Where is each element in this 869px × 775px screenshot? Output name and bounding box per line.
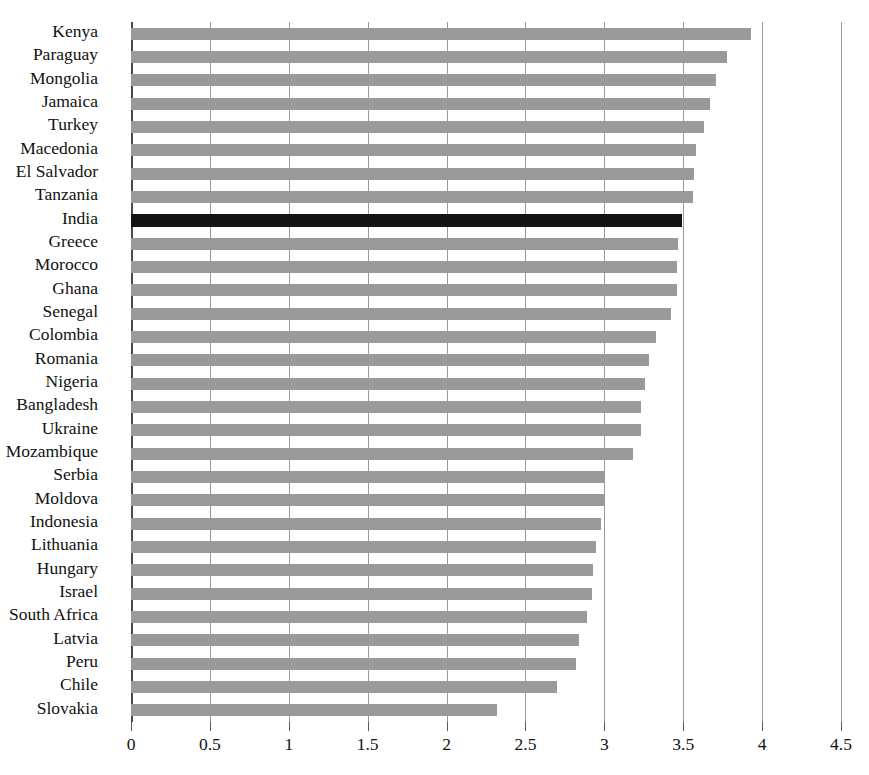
x-tick-label: 4.5	[830, 734, 852, 755]
category-label: South Africa	[9, 603, 98, 626]
x-tick-label: 2	[442, 734, 451, 755]
bar-row: Colombia	[131, 325, 841, 348]
bar	[131, 704, 497, 716]
x-tick-label: 2.5	[515, 734, 537, 755]
tick-mark	[604, 722, 605, 731]
bar	[131, 448, 633, 460]
x-axis-ticks: 00.511.522.533.544.5	[131, 722, 841, 772]
bar	[131, 611, 587, 623]
category-label: Indonesia	[30, 510, 98, 533]
bar-chart: KenyaParaguayMongoliaJamaicaTurkeyMacedo…	[0, 0, 869, 775]
category-label: Ukraine	[42, 417, 98, 440]
category-label: Hungary	[37, 557, 98, 580]
category-label: Latvia	[53, 627, 98, 650]
x-tick-label: 3	[600, 734, 609, 755]
category-label: Senegal	[43, 300, 98, 323]
bar-row: Macedonia	[131, 139, 841, 162]
bar	[131, 74, 716, 86]
bar-row: India	[131, 209, 841, 232]
gridline-4.5	[841, 22, 842, 722]
category-label: Mozambique	[6, 440, 98, 463]
category-label: Tanzania	[35, 183, 98, 206]
bar-row: Turkey	[131, 115, 841, 138]
bar	[131, 284, 677, 296]
bar	[131, 401, 641, 413]
tick-mark	[210, 722, 211, 731]
bar-row: Jamaica	[131, 92, 841, 115]
bar	[131, 588, 592, 600]
bar	[131, 331, 656, 343]
x-tick-label: 1	[284, 734, 293, 755]
bar-row: Ghana	[131, 279, 841, 302]
bar	[131, 681, 557, 693]
bar	[131, 308, 671, 320]
bar-row: Slovakia	[131, 699, 841, 722]
category-label: El Salvador	[16, 160, 98, 183]
tick-mark	[525, 722, 526, 731]
tick-mark	[131, 722, 132, 731]
x-tick-label: 3.5	[672, 734, 694, 755]
category-label: Chile	[60, 673, 98, 696]
category-label: Colombia	[29, 323, 98, 346]
tick-mark	[368, 722, 369, 731]
bar-row: South Africa	[131, 605, 841, 628]
bar	[131, 191, 693, 203]
category-label: Serbia	[53, 463, 98, 486]
bar-row: Ukraine	[131, 419, 841, 442]
bar	[131, 28, 751, 40]
bar-row: Greece	[131, 232, 841, 255]
bar-row: Serbia	[131, 465, 841, 488]
tick-mark	[289, 722, 290, 731]
bar	[131, 658, 576, 670]
bar-row: Latvia	[131, 629, 841, 652]
tick-mark	[841, 722, 842, 731]
category-label: Kenya	[52, 20, 98, 43]
bar	[131, 144, 696, 156]
category-label: Peru	[66, 650, 98, 673]
bar	[131, 238, 678, 250]
x-tick-label: 4	[758, 734, 767, 755]
category-label: Slovakia	[37, 697, 98, 720]
bar-row: Lithuania	[131, 535, 841, 558]
category-label: Israel	[59, 580, 98, 603]
category-label: India	[62, 207, 98, 230]
bar	[131, 634, 579, 646]
x-tick-label: 1.5	[357, 734, 379, 755]
category-label: Nigeria	[46, 370, 98, 393]
category-label: Lithuania	[31, 533, 98, 556]
bar-row: El Salvador	[131, 162, 841, 185]
bar	[131, 494, 604, 506]
x-tick-label: 0	[127, 734, 136, 755]
category-label: Mongolia	[30, 67, 98, 90]
tick-mark	[683, 722, 684, 731]
bar-row: Mozambique	[131, 442, 841, 465]
bar	[131, 564, 593, 576]
bar-row: Nigeria	[131, 372, 841, 395]
x-tick-label: 0.5	[199, 734, 221, 755]
bar	[131, 471, 604, 483]
category-label: Ghana	[52, 277, 98, 300]
category-label: Paraguay	[33, 43, 98, 66]
bar	[131, 51, 727, 63]
bar-row: Morocco	[131, 255, 841, 278]
bar	[131, 378, 645, 390]
bar-rows: KenyaParaguayMongoliaJamaicaTurkeyMacedo…	[131, 22, 841, 722]
category-label: Jamaica	[42, 90, 98, 113]
bar-row: Israel	[131, 582, 841, 605]
plot-area: KenyaParaguayMongoliaJamaicaTurkeyMacedo…	[131, 22, 841, 722]
bar-row: Moldova	[131, 489, 841, 512]
category-label: Moldova	[35, 487, 98, 510]
bar	[131, 261, 677, 273]
bar	[131, 541, 596, 553]
bar	[131, 424, 641, 436]
category-label: Morocco	[35, 253, 98, 276]
bar	[131, 214, 682, 227]
tick-mark	[447, 722, 448, 731]
category-label: Macedonia	[20, 137, 98, 160]
bar-row: Romania	[131, 349, 841, 372]
bar-row: Chile	[131, 675, 841, 698]
category-label: Romania	[35, 347, 98, 370]
category-label: Greece	[48, 230, 98, 253]
bar-row: Peru	[131, 652, 841, 675]
bar-row: Senegal	[131, 302, 841, 325]
